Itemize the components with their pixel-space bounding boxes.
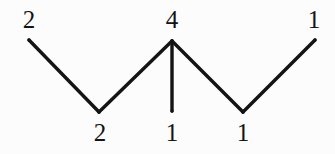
graph-vertex-dot (313, 38, 316, 41)
edge-group (29, 40, 315, 112)
graph-edge (172, 41, 243, 112)
graph-edge (243, 40, 315, 112)
graph-vertex-dot (170, 39, 173, 42)
vertex-label-n1: 2 (9, 7, 49, 32)
graph-vertex-dot (97, 110, 100, 113)
graph-edge (29, 40, 99, 112)
diagram-canvas: 224111 (0, 0, 335, 154)
graph-edge (99, 41, 172, 112)
vertex-label-n5: 1 (223, 120, 263, 145)
vertex-label-n4: 1 (152, 120, 192, 145)
graph-vertex-dot (241, 110, 244, 113)
graph-vertex-dot (170, 109, 173, 112)
graph-vertex-dot (27, 38, 30, 41)
vertex-label-n2: 2 (80, 120, 120, 145)
vertex-label-n3: 4 (152, 7, 192, 32)
vertex-label-n6: 1 (294, 7, 334, 32)
